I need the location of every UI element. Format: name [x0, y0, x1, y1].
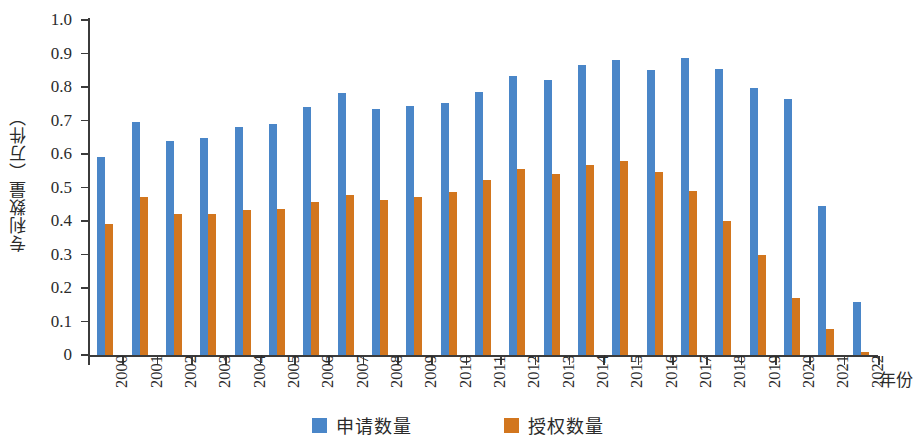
x-axis-title: 年份	[879, 366, 913, 391]
y-axis-title-text: 专利数量（万件）	[5, 108, 30, 252]
x-axis-tick-label: 2019	[765, 368, 785, 388]
bar-授权数量-2000	[105, 224, 113, 355]
legend-item-申请数量[interactable]: 申请数量	[312, 412, 412, 438]
legend-swatch-icon	[312, 418, 327, 433]
x-axis-tick-label: 2014	[593, 368, 613, 388]
x-axis-tick-label: 2007	[353, 368, 373, 388]
patent-bar-chart: 专利数量（万件） 1.00.90.80.70.60.50.40.30.20.10…	[0, 0, 915, 442]
y-axis-tick-label: 0.6	[30, 145, 72, 162]
bar-授权数量-2006	[311, 202, 319, 355]
bar-申请数量-2003	[200, 138, 208, 355]
y-axis-tick-label: 0.1	[30, 313, 72, 330]
x-axis-tick-label: 2009	[421, 368, 441, 388]
y-axis-tick-label: 0.4	[30, 212, 72, 229]
bar-授权数量-2015	[620, 161, 628, 355]
bar-申请数量-2014	[578, 65, 586, 355]
bar-授权数量-2021	[826, 329, 834, 355]
bar-授权数量-2013	[552, 174, 560, 355]
legend-label: 申请数量	[336, 412, 412, 438]
bar-授权数量-2007	[346, 195, 354, 355]
bar-授权数量-2005	[277, 209, 285, 355]
bar-授权数量-2012	[517, 169, 525, 355]
bar-申请数量-2013	[544, 80, 552, 355]
bar-申请数量-2001	[132, 122, 140, 355]
legend-item-授权数量[interactable]: 授权数量	[504, 412, 604, 438]
bar-申请数量-2015	[612, 60, 620, 355]
y-axis-tick-label: 1.0	[30, 11, 72, 28]
bar-授权数量-2004	[243, 210, 251, 355]
y-axis-title: 专利数量（万件）	[0, 0, 34, 360]
x-axis-tick-label: 2017	[696, 368, 716, 388]
x-axis-tick-label: 2013	[559, 368, 579, 388]
x-axis-tick-label: 2002	[181, 368, 201, 388]
y-axis-tick-label: 0.9	[30, 45, 72, 62]
bar-申请数量-2002	[166, 141, 174, 355]
bar-申请数量-2016	[647, 70, 655, 355]
legend-label: 授权数量	[528, 412, 604, 438]
bar-授权数量-2009	[414, 197, 422, 355]
x-axis-tick-label: 2000	[112, 368, 132, 388]
bar-申请数量-2007	[338, 93, 346, 355]
x-axis-tick-label: 2012	[524, 368, 544, 388]
x-axis-tick-label: 2004	[250, 368, 270, 388]
bar-授权数量-2002	[174, 214, 182, 355]
x-axis-tick-label: 2003	[215, 368, 235, 388]
x-axis-tick-label: 2011	[490, 368, 510, 388]
chart-legend: 申请数量授权数量	[0, 412, 915, 438]
x-axis-line	[88, 355, 878, 357]
bar-授权数量-2011	[483, 180, 491, 355]
bar-授权数量-2017	[689, 191, 697, 355]
x-axis-tick-label: 2005	[284, 368, 304, 388]
bar-申请数量-2000	[97, 157, 105, 355]
bar-授权数量-2019	[758, 255, 766, 355]
x-axis-tick-label: 2010	[456, 368, 476, 388]
y-axis-tick-label: 0.5	[30, 179, 72, 196]
x-axis-tick-label: 2001	[147, 368, 167, 388]
legend-swatch-icon	[504, 418, 519, 433]
bar-申请数量-2010	[441, 103, 449, 355]
x-axis-tick-label: 2006	[318, 368, 338, 388]
x-axis-tick-label: 2015	[627, 368, 647, 388]
x-axis-tick-label: 2008	[387, 368, 407, 388]
bar-授权数量-2020	[792, 298, 800, 355]
bar-申请数量-2019	[750, 88, 758, 355]
bar-授权数量-2001	[140, 197, 148, 355]
bar-申请数量-2022	[853, 302, 861, 355]
y-axis-tick-label: 0.7	[30, 112, 72, 129]
bar-申请数量-2021	[818, 206, 826, 355]
bar-申请数量-2008	[372, 109, 380, 355]
x-axis-tick	[88, 356, 90, 365]
bar-申请数量-2005	[269, 124, 277, 355]
y-axis-tick-label: 0.2	[30, 279, 72, 296]
bar-申请数量-2018	[715, 69, 723, 355]
bar-申请数量-2020	[784, 99, 792, 355]
y-axis-tick-label: 0	[30, 346, 72, 363]
bar-申请数量-2017	[681, 58, 689, 355]
bar-申请数量-2009	[406, 106, 414, 355]
bar-授权数量-2003	[208, 214, 216, 355]
y-axis-tick-label: 0.3	[30, 246, 72, 263]
bar-授权数量-2016	[655, 172, 663, 355]
bar-授权数量-2018	[723, 221, 731, 355]
x-axis-tick-label: 2021	[833, 368, 853, 388]
x-axis-tick-label: 2018	[730, 368, 750, 388]
plot-area	[88, 20, 878, 355]
x-axis-tick-label: 2020	[799, 368, 819, 388]
y-axis-tick-label: 0.8	[30, 78, 72, 95]
bar-申请数量-2011	[475, 92, 483, 355]
bar-授权数量-2014	[586, 165, 594, 355]
bar-申请数量-2006	[303, 107, 311, 355]
bar-申请数量-2004	[235, 127, 243, 355]
bar-申请数量-2012	[509, 76, 517, 355]
bar-授权数量-2010	[449, 192, 457, 355]
x-axis-tick-label: 2016	[662, 368, 682, 388]
bar-授权数量-2008	[380, 200, 388, 355]
